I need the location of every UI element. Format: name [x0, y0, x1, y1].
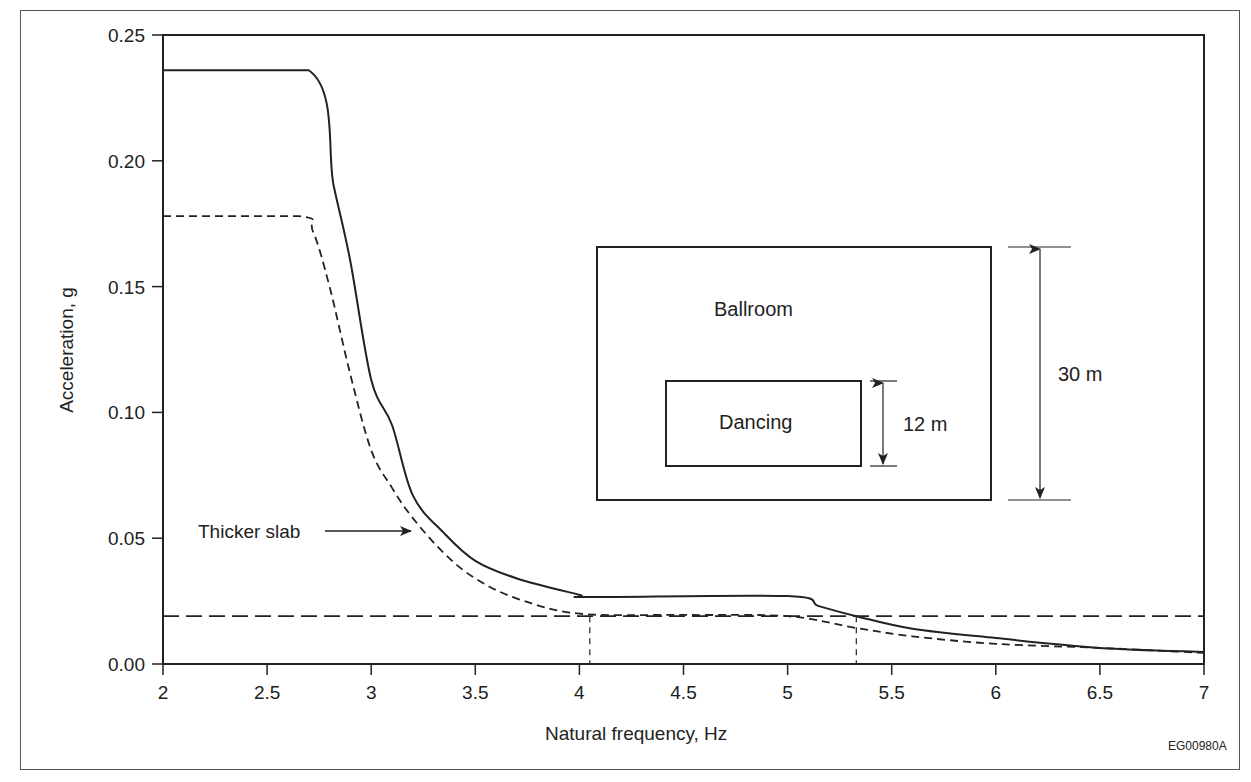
y-tick-label: 0.25 [108, 25, 145, 46]
x-axis-title: Natural frequency, Hz [545, 723, 727, 744]
x-tick-label: 6 [991, 682, 1002, 703]
x-tick-label: 3 [366, 682, 377, 703]
x-tick-label: 3.5 [462, 682, 488, 703]
y-tick-label: 0.05 [108, 528, 145, 549]
ballroom-label: Ballroom [714, 298, 793, 320]
y-tick-label: 0.10 [108, 402, 145, 423]
outer-dimension-label: 30 m [1058, 363, 1102, 385]
y-tick-label: 0.20 [108, 151, 145, 172]
inner-dimension-label: 12 m [903, 413, 947, 435]
y-axis-ticks: 0.000.050.100.150.200.25 [108, 25, 163, 675]
y-tick-label: 0.00 [108, 654, 145, 675]
x-tick-label: 6.5 [1087, 682, 1113, 703]
x-tick-label: 4 [574, 682, 585, 703]
y-tick-label: 0.15 [108, 277, 145, 298]
x-tick-label: 7 [1199, 682, 1210, 703]
x-tick-label: 5.5 [878, 682, 904, 703]
thicker-slab-annotation: Thicker slab [198, 521, 300, 542]
x-tick-label: 4.5 [670, 682, 696, 703]
acceleration-vs-frequency-chart: 0.000.050.100.150.200.25 22.533.544.555.… [0, 0, 1251, 782]
vertical-markers [590, 616, 856, 664]
y-axis-title: Acceleration, g [56, 287, 77, 413]
x-axis-ticks: 22.533.544.555.566.57 [158, 664, 1210, 703]
x-tick-label: 2.5 [254, 682, 280, 703]
x-tick-label: 2 [158, 682, 169, 703]
inset-diagram: Ballroom Dancing 12 m 30 m [597, 247, 1102, 500]
figure-code: EG00980A [1168, 739, 1227, 753]
dancing-label: Dancing [719, 411, 792, 433]
x-tick-label: 5 [782, 682, 793, 703]
